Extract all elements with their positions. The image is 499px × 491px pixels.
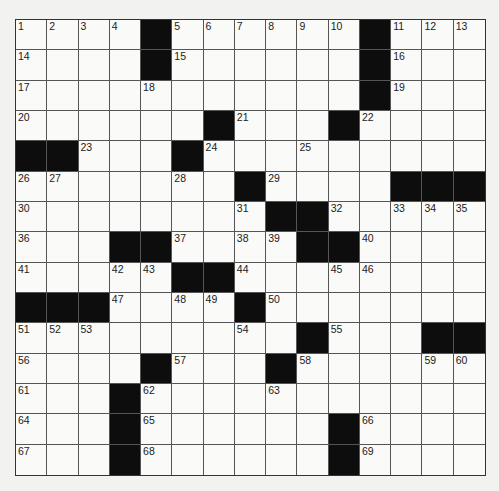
- crossword-cell[interactable]: [110, 81, 141, 111]
- crossword-cell[interactable]: 31: [235, 202, 266, 232]
- crossword-cell[interactable]: 51: [16, 323, 47, 353]
- crossword-cell[interactable]: [391, 141, 422, 171]
- crossword-cell[interactable]: [79, 445, 110, 475]
- crossword-cell[interactable]: 68: [141, 445, 172, 475]
- crossword-cell[interactable]: 32: [329, 202, 360, 232]
- crossword-cell[interactable]: [172, 111, 203, 141]
- crossword-cell[interactable]: [297, 445, 328, 475]
- crossword-cell[interactable]: 39: [266, 232, 297, 262]
- crossword-cell[interactable]: 63: [266, 384, 297, 414]
- crossword-cell[interactable]: [172, 81, 203, 111]
- crossword-cell[interactable]: [47, 354, 78, 384]
- crossword-cell[interactable]: 27: [47, 172, 78, 202]
- crossword-cell[interactable]: [360, 293, 391, 323]
- crossword-cell[interactable]: 38: [235, 232, 266, 262]
- crossword-cell[interactable]: [360, 384, 391, 414]
- crossword-cell[interactable]: 30: [16, 202, 47, 232]
- crossword-cell[interactable]: 69: [360, 445, 391, 475]
- crossword-cell[interactable]: [391, 445, 422, 475]
- crossword-cell[interactable]: 50: [266, 293, 297, 323]
- crossword-cell[interactable]: [422, 384, 453, 414]
- crossword-cell[interactable]: [204, 354, 235, 384]
- crossword-cell[interactable]: 41: [16, 263, 47, 293]
- crossword-cell[interactable]: [391, 263, 422, 293]
- crossword-cell[interactable]: [454, 81, 485, 111]
- crossword-cell[interactable]: 9: [297, 20, 328, 50]
- crossword-cell[interactable]: 35: [454, 202, 485, 232]
- crossword-cell[interactable]: [454, 384, 485, 414]
- crossword-cell[interactable]: [47, 445, 78, 475]
- crossword-cell[interactable]: [422, 141, 453, 171]
- crossword-cell[interactable]: [235, 50, 266, 80]
- crossword-cell[interactable]: [235, 384, 266, 414]
- crossword-cell[interactable]: 64: [16, 414, 47, 444]
- crossword-cell[interactable]: [110, 111, 141, 141]
- crossword-cell[interactable]: 14: [16, 50, 47, 80]
- crossword-cell[interactable]: [172, 384, 203, 414]
- crossword-cell[interactable]: [266, 50, 297, 80]
- crossword-cell[interactable]: [204, 81, 235, 111]
- crossword-cell[interactable]: [204, 172, 235, 202]
- crossword-cell[interactable]: [422, 293, 453, 323]
- crossword-cell[interactable]: 43: [141, 263, 172, 293]
- crossword-cell[interactable]: [110, 323, 141, 353]
- crossword-cell[interactable]: [79, 202, 110, 232]
- crossword-cell[interactable]: [79, 50, 110, 80]
- crossword-cell[interactable]: [110, 141, 141, 171]
- crossword-cell[interactable]: [422, 445, 453, 475]
- crossword-cell[interactable]: [172, 414, 203, 444]
- crossword-cell[interactable]: 28: [172, 172, 203, 202]
- crossword-cell[interactable]: [454, 445, 485, 475]
- crossword-cell[interactable]: 13: [454, 20, 485, 50]
- crossword-cell[interactable]: [141, 323, 172, 353]
- crossword-cell[interactable]: [391, 232, 422, 262]
- crossword-cell[interactable]: 7: [235, 20, 266, 50]
- crossword-cell[interactable]: [204, 384, 235, 414]
- crossword-cell[interactable]: [79, 263, 110, 293]
- crossword-cell[interactable]: [47, 111, 78, 141]
- crossword-cell[interactable]: [422, 111, 453, 141]
- crossword-cell[interactable]: [297, 384, 328, 414]
- crossword-cell[interactable]: [391, 384, 422, 414]
- crossword-cell[interactable]: 36: [16, 232, 47, 262]
- crossword-cell[interactable]: [329, 384, 360, 414]
- crossword-cell[interactable]: 37: [172, 232, 203, 262]
- crossword-cell[interactable]: [47, 232, 78, 262]
- crossword-cell[interactable]: [47, 384, 78, 414]
- crossword-cell[interactable]: 48: [172, 293, 203, 323]
- crossword-cell[interactable]: 53: [79, 323, 110, 353]
- crossword-cell[interactable]: [266, 263, 297, 293]
- crossword-cell[interactable]: [329, 141, 360, 171]
- crossword-cell[interactable]: [266, 111, 297, 141]
- crossword-cell[interactable]: [391, 323, 422, 353]
- crossword-cell[interactable]: [110, 354, 141, 384]
- crossword-cell[interactable]: [266, 445, 297, 475]
- crossword-cell[interactable]: [454, 232, 485, 262]
- crossword-cell[interactable]: [47, 50, 78, 80]
- crossword-cell[interactable]: [266, 323, 297, 353]
- crossword-cell[interactable]: [141, 172, 172, 202]
- crossword-cell[interactable]: [266, 81, 297, 111]
- crossword-cell[interactable]: [235, 414, 266, 444]
- crossword-cell[interactable]: 29: [266, 172, 297, 202]
- crossword-cell[interactable]: [79, 414, 110, 444]
- crossword-cell[interactable]: 62: [141, 384, 172, 414]
- crossword-cell[interactable]: 49: [204, 293, 235, 323]
- crossword-cell[interactable]: 67: [16, 445, 47, 475]
- crossword-cell[interactable]: 8: [266, 20, 297, 50]
- crossword-cell[interactable]: [172, 445, 203, 475]
- crossword-cell[interactable]: 25: [297, 141, 328, 171]
- crossword-cell[interactable]: [204, 50, 235, 80]
- crossword-cell[interactable]: [454, 293, 485, 323]
- crossword-cell[interactable]: [360, 354, 391, 384]
- crossword-cell[interactable]: [266, 414, 297, 444]
- crossword-cell[interactable]: [235, 445, 266, 475]
- crossword-cell[interactable]: [297, 414, 328, 444]
- crossword-cell[interactable]: [47, 81, 78, 111]
- crossword-cell[interactable]: [391, 111, 422, 141]
- crossword-cell[interactable]: [454, 50, 485, 80]
- crossword-cell[interactable]: [141, 111, 172, 141]
- crossword-cell[interactable]: 52: [47, 323, 78, 353]
- crossword-cell[interactable]: 16: [391, 50, 422, 80]
- crossword-cell[interactable]: [329, 293, 360, 323]
